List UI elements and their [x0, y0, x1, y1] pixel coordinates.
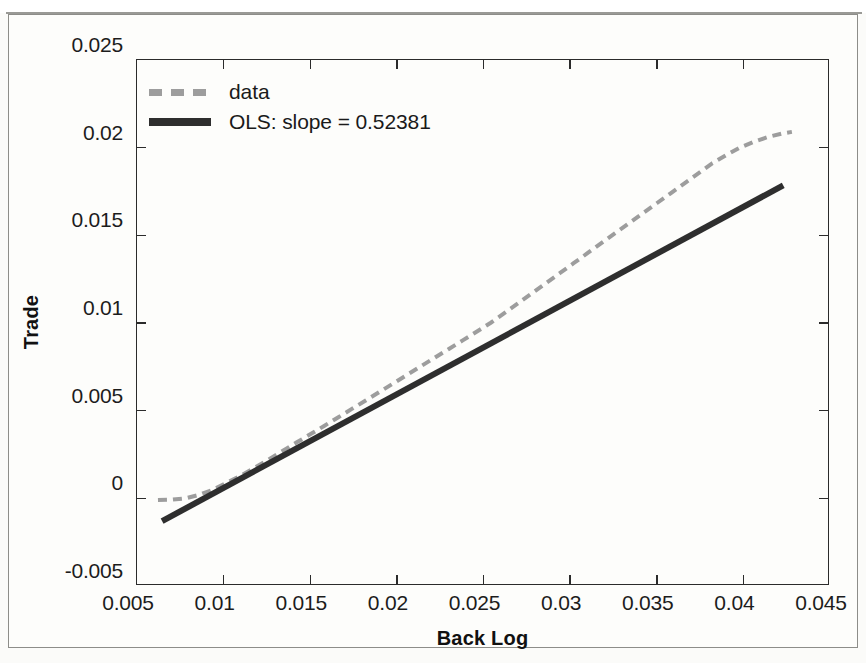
y-tick-label: 0: [112, 471, 123, 495]
y-tick-label: 0.005: [71, 384, 123, 408]
y-tick-mark: [819, 235, 828, 237]
legend-item-ols: OLS: slope = 0.52381: [149, 107, 479, 137]
x-tick-mark: [396, 575, 398, 584]
x-tick-label: 0.045: [795, 591, 847, 615]
x-tick-label: 0.005: [102, 591, 154, 615]
chart-legend: data OLS: slope = 0.52381: [149, 77, 479, 137]
y-axis-title: Trade: [20, 295, 43, 349]
x-tick-mark: [569, 60, 571, 69]
x-tick-mark: [223, 575, 225, 584]
x-tick-label: 0.025: [449, 591, 501, 615]
chart-svg: [137, 60, 830, 586]
x-tick-mark: [483, 60, 485, 69]
x-axis-title: Back Log: [136, 627, 829, 650]
x-tick-mark: [223, 60, 225, 69]
x-tick-mark: [396, 60, 398, 69]
x-tick-mark: [569, 575, 571, 584]
x-tick-label: 0.015: [275, 591, 327, 615]
series-line-data: [158, 132, 792, 500]
series-layer: [158, 132, 792, 521]
x-tick-label: 0.02: [368, 591, 408, 615]
x-tick-mark: [743, 575, 745, 584]
x-tick-mark: [656, 575, 658, 584]
x-tick-mark: [656, 60, 658, 69]
x-tick-mark: [743, 60, 745, 69]
y-tick-mark: [137, 235, 146, 237]
legend-swatch-dashed-icon: [149, 89, 211, 96]
y-tick-label: 0.015: [71, 208, 123, 232]
y-tick-mark: [137, 410, 146, 412]
legend-label-data: data: [229, 80, 269, 104]
y-tick-label: 0.02: [83, 121, 123, 145]
chart-page: 0.0050.010.0150.020.0250.030.0350.040.04…: [0, 0, 866, 663]
y-tick-mark: [819, 322, 828, 324]
y-tick-label: 0.025: [71, 33, 123, 57]
legend-item-data: data: [149, 77, 479, 107]
figure-frame: 0.0050.010.0150.020.0250.030.0350.040.04…: [8, 14, 858, 648]
legend-label-ols: OLS: slope = 0.52381: [229, 110, 431, 134]
x-tick-mark: [310, 575, 312, 584]
y-tick-mark: [137, 147, 146, 149]
plot-area: [136, 59, 829, 585]
x-tick-mark: [310, 60, 312, 69]
y-tick-mark: [137, 498, 146, 500]
x-tick-label: 0.03: [541, 591, 581, 615]
x-tick-label: 0.035: [622, 591, 674, 615]
x-tick-label: 0.01: [195, 591, 235, 615]
y-tick-mark: [819, 147, 828, 149]
series-line-ols: [162, 185, 783, 521]
y-tick-label: -0.005: [65, 559, 123, 583]
y-tick-label: 0.01: [83, 296, 123, 320]
x-tick-mark: [483, 575, 485, 584]
y-tick-mark: [819, 498, 828, 500]
y-tick-mark: [819, 410, 828, 412]
y-tick-mark: [137, 322, 146, 324]
x-tick-label: 0.04: [714, 591, 754, 615]
legend-swatch-solid-icon: [149, 118, 211, 126]
